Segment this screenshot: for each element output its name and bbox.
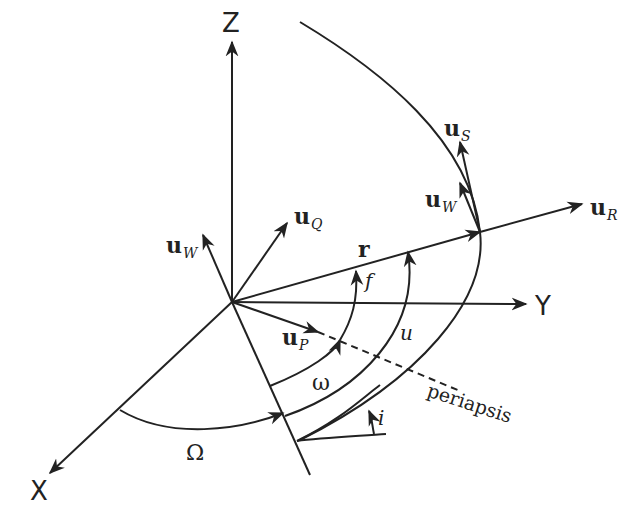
- z-axis-label: Z: [222, 8, 240, 38]
- f-arc: [340, 271, 356, 340]
- i-arc-orbit: [297, 385, 380, 441]
- u-w-origin-vector: [203, 235, 232, 302]
- u-arc: [285, 252, 410, 416]
- y-axis-label: Y: [534, 291, 551, 321]
- u-q-vector: [232, 223, 287, 302]
- i-label: i: [378, 406, 384, 430]
- u-q-label: uQ: [294, 203, 323, 232]
- u-w-orbit-label: uW: [425, 186, 458, 215]
- x-axis-label: X: [30, 476, 48, 506]
- periapsis-label: periapsis: [425, 379, 515, 427]
- i-arc: [369, 411, 374, 434]
- u-s-vector: [460, 142, 480, 232]
- line-of-nodes: [232, 302, 310, 475]
- omega-label: ω: [312, 370, 330, 395]
- u-p-vector: [232, 302, 318, 332]
- u-r-label: uR: [590, 194, 618, 223]
- x-axis: [50, 302, 232, 473]
- r-label: r: [358, 236, 370, 262]
- u-w-origin-label: uW: [166, 232, 199, 261]
- u-label: u: [400, 321, 413, 345]
- omega-cap-arc: [120, 410, 283, 429]
- u-s-label: uS: [444, 115, 471, 144]
- f-label: f: [363, 269, 376, 293]
- u-r-vector: [480, 204, 582, 232]
- orbital-elements-diagram: Z Y X uW uQ uP r uR uS uW Ω ω f u i peri…: [0, 0, 636, 524]
- y-axis: [232, 302, 526, 304]
- omega-cap-label: Ω: [186, 440, 204, 465]
